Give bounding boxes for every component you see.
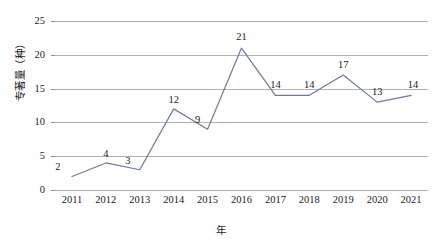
- data-point-label: 2: [45, 161, 71, 172]
- line-chart: 专著量（种） 年 0510152025 20112012201320142015…: [0, 0, 442, 247]
- x-axis-title: 年: [0, 222, 442, 237]
- data-point-label: 13: [364, 86, 390, 97]
- data-point-label: 9: [185, 114, 211, 125]
- y-tick-label: 10: [23, 117, 45, 127]
- x-tick-label: 2021: [391, 194, 431, 205]
- y-tick-label: 15: [23, 84, 45, 94]
- plot-area: 243129211414171314: [55, 21, 428, 190]
- data-point-label: 14: [262, 79, 288, 90]
- data-point-label: 12: [161, 94, 187, 105]
- y-tick-label: 5: [23, 151, 45, 161]
- data-point-label: 14: [296, 79, 322, 90]
- y-tick-label: 25: [23, 16, 45, 26]
- y-tick-label: 0: [23, 185, 45, 195]
- y-axis-title: 专著量（种）: [12, 25, 27, 115]
- gridline: [55, 190, 428, 191]
- data-point-label: 21: [229, 31, 255, 42]
- y-tick-mark: [51, 190, 55, 191]
- data-point-label: 17: [330, 59, 356, 70]
- y-tick-label: 20: [23, 50, 45, 60]
- data-point-label: 14: [400, 79, 426, 90]
- data-point-label: 3: [115, 155, 141, 166]
- data-line: [55, 21, 428, 190]
